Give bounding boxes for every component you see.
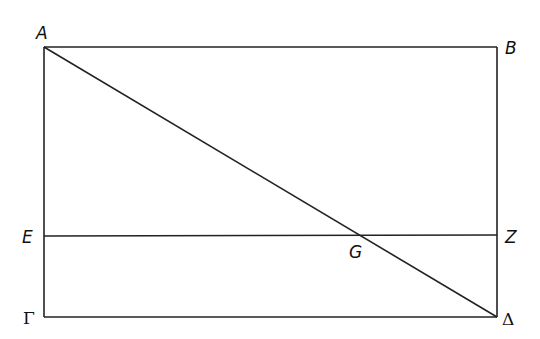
geometry-diagram: A B E Z G Γ Δ: [0, 0, 540, 339]
label-g: G: [349, 242, 362, 262]
label-b: B: [505, 38, 517, 58]
label-gamma: Γ: [23, 308, 35, 328]
label-delta: Δ: [502, 309, 514, 329]
diagonal-a-delta: [44, 47, 497, 317]
label-z: Z: [504, 227, 517, 247]
label-a: A: [35, 23, 48, 43]
label-e: E: [22, 227, 33, 247]
segment-ez: [44, 235, 497, 236]
